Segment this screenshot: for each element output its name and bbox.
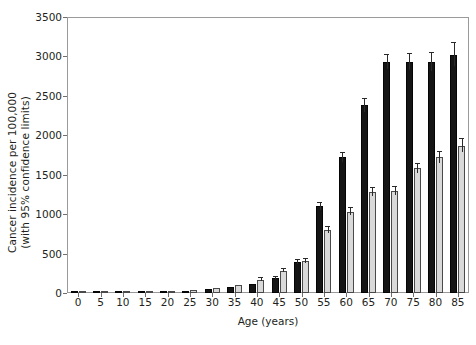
error-bar-cap (451, 42, 456, 43)
error-bar-cap (281, 268, 286, 269)
x-axis-tick-label: 40 (250, 296, 263, 308)
bar (324, 230, 331, 293)
error-bar-stem (439, 152, 440, 162)
x-axis-title: Age (years) (67, 315, 469, 327)
bar-group (182, 17, 197, 293)
y-axis-tick-label: 3500 (35, 11, 62, 23)
y-axis-tick-label: 2500 (35, 90, 62, 102)
error-bar-stem (342, 153, 343, 162)
bar (213, 288, 220, 293)
error-bar-stem (372, 188, 373, 196)
error-bar-cap (295, 259, 300, 260)
error-bar-cap (415, 163, 420, 164)
x-axis-tick-label: 65 (362, 296, 375, 308)
bar (168, 291, 175, 293)
bar-group (406, 17, 421, 293)
y-axis-tick-mark (63, 175, 67, 176)
x-axis-tick-label: 15 (138, 296, 151, 308)
error-bar-stem (395, 187, 396, 195)
error-bar-cap (362, 98, 367, 99)
error-bar-cap (407, 53, 412, 54)
error-bar-cap (384, 54, 389, 55)
error-bar-cap (340, 152, 345, 153)
y-axis-tick-mark (63, 96, 67, 97)
error-bar-cap (303, 258, 308, 259)
bar-group (428, 17, 443, 293)
y-axis-tick-mark (63, 17, 67, 18)
bar (182, 291, 189, 293)
error-bar-cap (258, 277, 263, 278)
bar-group (138, 17, 153, 293)
x-axis-tick-label: 60 (339, 296, 352, 308)
x-axis-tick-label: 20 (161, 296, 174, 308)
bar (123, 291, 130, 293)
y-axis-title-line1: Cancer incidence per 100,000 (6, 92, 19, 253)
bar (436, 157, 443, 293)
bar (361, 105, 368, 293)
error-bar-stem (350, 208, 351, 215)
error-bar-stem (431, 53, 432, 72)
x-axis-tick-label: 75 (406, 296, 419, 308)
y-axis-tick-label: 500 (42, 248, 62, 260)
x-axis-tick-label: 45 (272, 296, 285, 308)
bar (190, 290, 197, 293)
error-bar-stem (305, 259, 306, 263)
x-axis-tick-label: 35 (228, 296, 241, 308)
bar (227, 287, 234, 293)
x-axis-tick-label: 10 (116, 296, 129, 308)
y-axis-tick-label: 0 (55, 287, 62, 299)
bar-group (227, 17, 242, 293)
y-axis-tick-label: 2000 (35, 129, 62, 141)
bar-group (339, 17, 354, 293)
y-axis-tick-mark (63, 56, 67, 57)
bar (294, 262, 301, 293)
bar (302, 261, 309, 293)
bar (160, 291, 167, 293)
bar (235, 285, 242, 293)
bar-group (249, 17, 264, 293)
x-axis-tick-label: 5 (97, 296, 104, 308)
error-bar-stem (297, 260, 298, 264)
error-bar-stem (283, 269, 284, 272)
y-axis-tick-mark (63, 135, 67, 136)
bar-group (316, 17, 331, 293)
x-axis-tick-label: 70 (384, 296, 397, 308)
error-bar-cap (429, 52, 434, 53)
bar-group (361, 17, 376, 293)
x-axis-tick-label: 85 (451, 296, 464, 308)
bar (79, 291, 86, 293)
bar (146, 291, 153, 293)
bar (257, 280, 264, 293)
bar (369, 192, 376, 293)
bar-group (272, 17, 287, 293)
bar-group (71, 17, 86, 293)
error-bar-cap (317, 202, 322, 203)
error-bar-stem (387, 55, 388, 70)
y-axis-tick-labels: 0500100015002000250030003500 (30, 0, 62, 345)
bar-group (93, 17, 108, 293)
bar-group (383, 17, 398, 293)
error-bar-stem (275, 277, 276, 280)
error-bar-stem (417, 164, 418, 174)
bar (406, 62, 413, 293)
error-bar-cap (325, 226, 330, 227)
bar-group (450, 17, 465, 293)
bar (280, 271, 287, 293)
bar (71, 291, 78, 293)
error-bar-cap (370, 187, 375, 188)
y-axis-tick-label: 1000 (35, 208, 62, 220)
error-bar-cap (348, 207, 353, 208)
bar-group (205, 17, 220, 293)
y-axis-tick-mark (63, 293, 67, 294)
y-axis-tick-label: 1500 (35, 169, 62, 181)
x-axis-tick-label: 80 (429, 296, 442, 308)
y-axis-tick-label: 3000 (35, 50, 62, 62)
bar (450, 55, 457, 293)
bar (458, 146, 465, 293)
x-axis-tick-label: 50 (295, 296, 308, 308)
y-axis-tick-mark (63, 214, 67, 215)
bar (414, 168, 421, 293)
y-axis-tick-mark (63, 254, 67, 255)
bar (316, 206, 323, 293)
bar (347, 212, 354, 293)
